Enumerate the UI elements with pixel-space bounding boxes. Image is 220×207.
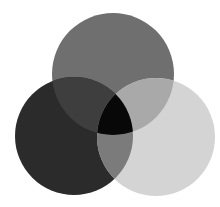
venn-svg bbox=[0, 0, 220, 207]
venn-diagram bbox=[0, 0, 220, 207]
